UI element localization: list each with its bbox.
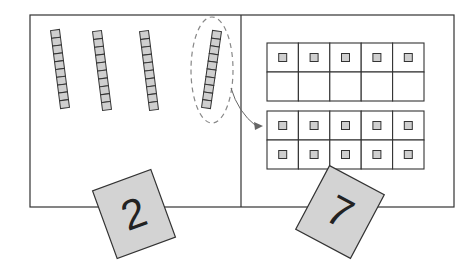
ten-frame-cell (361, 72, 392, 101)
unit-cube (373, 122, 381, 130)
unit-cube (279, 122, 287, 130)
unit-cube (404, 54, 412, 62)
ten-frame (267, 43, 424, 101)
unit-cube (60, 100, 70, 109)
unit-cube (102, 102, 112, 111)
ten-frame-cell (393, 72, 424, 101)
unit-cube (310, 151, 318, 159)
unit-cube (310, 54, 318, 62)
unit-cube (342, 122, 350, 130)
unit-cube (202, 100, 212, 109)
place-value-diagram: 2 7 (0, 0, 473, 268)
unit-cube (149, 102, 159, 111)
unit-cube (342, 151, 350, 159)
unit-cube (373, 151, 381, 159)
unit-cube (404, 151, 412, 159)
ten-frame (267, 111, 424, 169)
unit-cube (310, 122, 318, 130)
unit-cube (404, 122, 412, 130)
unit-cube (279, 151, 287, 159)
ten-frame-cell (267, 72, 298, 101)
ten-frame-cell (298, 72, 329, 101)
unit-cube (279, 54, 287, 62)
ten-frame-cell (330, 72, 361, 101)
unit-cube (342, 54, 350, 62)
unit-cube (373, 54, 381, 62)
